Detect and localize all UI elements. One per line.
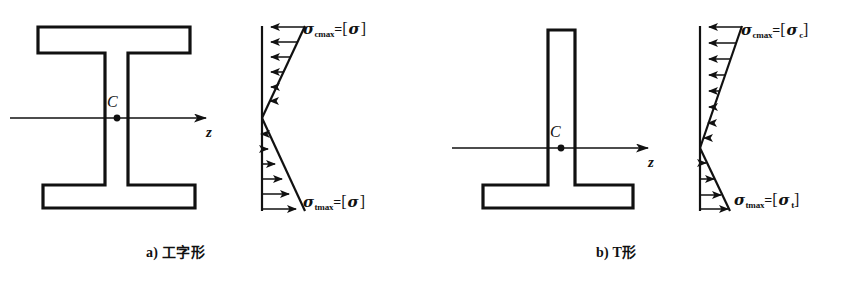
bracket-open: [ [341,193,346,210]
sigma-subscript: cmax [315,29,335,39]
panel-a-centroid-label: C [107,93,118,111]
bracket-close: ] [803,21,808,38]
bracket-close: ] [360,193,365,210]
allowable-sigma-glyph: σ [348,193,359,211]
bracket-close: ] [794,191,799,208]
bracket-open: [ [772,191,777,208]
panel-b-stress-diagram [700,26,742,211]
bracket-open: [ [342,20,347,37]
panel-b-compression-envelope [700,26,742,148]
sigma-glyph: σ [741,21,752,39]
panel-a-centroid-point [114,115,121,122]
sigma-subscript: tmax [315,202,334,212]
sigma-glyph: σ [303,20,314,38]
panel-b-axis-label: z [648,154,654,171]
panel-b-caption: b) T形 [596,241,637,261]
sigma-glyph: σ [734,191,745,209]
panel-b-sigma-tmax-label: σtmax=[σt] [734,192,799,210]
panel-b-centroid-label: C [550,123,561,141]
bracket-open: [ [780,21,785,38]
allowable-sigma-glyph: σ [779,191,790,209]
allowable-sigma-glyph: σ [349,20,360,38]
panel-a-caption: a) 工字形 [146,241,205,261]
allowable-sigma-glyph: σ [787,21,798,39]
panel-a-sigma-cmax-label: σcmax=[σ] [303,21,366,39]
panel-b-tension-arrows [700,163,728,209]
figure-canvas [0,0,861,286]
panel-b-sigma-cmax-label: σcmax=[σc] [741,22,808,40]
bracket-close: ] [361,20,366,37]
sigma-subscript: tmax [746,200,765,210]
panel-a-sigma-tmax-label: σtmax=[σ] [303,194,365,212]
panel-a-stress-diagram [261,26,305,211]
panel-a-tension-arrows [261,134,296,209]
engineering-figure: C z σcmax=[σ] σtmax=[σ] a) 工字形 C z σcmax… [0,0,861,286]
panel-b-t-section-outline [483,30,633,208]
panel-a-axis-label: z [206,124,212,141]
sigma-subscript: cmax [753,30,773,40]
panel-b-centroid-point [558,145,565,152]
sigma-glyph: σ [303,193,314,211]
